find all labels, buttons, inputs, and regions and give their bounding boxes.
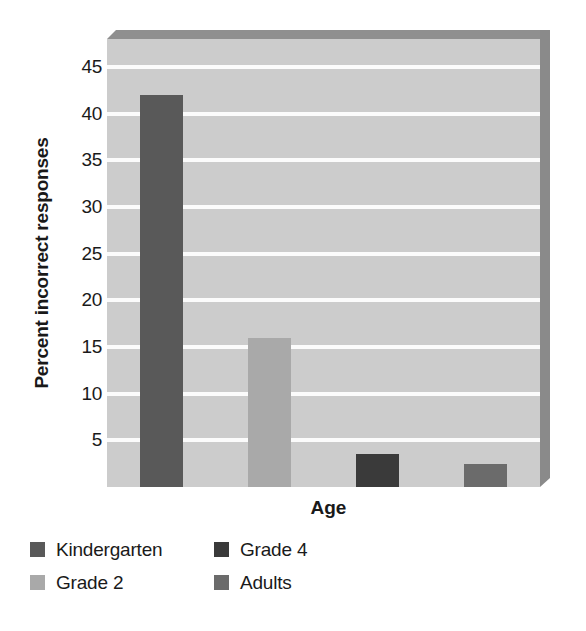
y-axis-title: Percent incorrect responses	[31, 103, 53, 423]
y-axis-tick-label: 5	[58, 429, 102, 451]
plot-right-bevel	[540, 30, 550, 487]
legend-row: Grade 2 Adults	[30, 566, 450, 599]
x-axis-title: Age	[107, 497, 550, 519]
y-axis-tick-label: 25	[58, 243, 102, 265]
legend-row: Kindergarten Grade 4	[30, 533, 450, 566]
y-axis-tick-labels: 51015202530354045	[58, 30, 102, 487]
bar-grade-4	[356, 454, 399, 487]
plot-shell	[107, 30, 550, 487]
legend-label: Kindergarten	[56, 539, 162, 561]
legend-swatch-icon	[214, 542, 229, 557]
chart-legend: Kindergarten Grade 4 Grade 2 Adults	[30, 533, 450, 599]
y-axis-tick-label: 20	[58, 289, 102, 311]
y-axis-tick-label: 45	[58, 56, 102, 78]
bar-adults	[464, 464, 507, 487]
legend-item-grade-4: Grade 4	[214, 539, 307, 561]
legend-swatch-icon	[30, 575, 45, 590]
bar-grade-2	[248, 338, 291, 487]
legend-item-kindergarten: Kindergarten	[30, 539, 214, 561]
bar-chart-figure: Percent incorrect responses 510152025303…	[0, 0, 586, 631]
plot-area	[107, 39, 540, 487]
legend-label: Grade 2	[56, 572, 123, 594]
y-axis-tick-label: 10	[58, 383, 102, 405]
legend-item-grade-2: Grade 2	[30, 572, 214, 594]
legend-swatch-icon	[214, 575, 229, 590]
bars-layer	[107, 39, 540, 487]
legend-label: Adults	[240, 572, 292, 594]
y-axis-tick-label: 35	[58, 149, 102, 171]
plot-top-bevel	[107, 30, 541, 39]
y-axis-tick-label: 15	[58, 336, 102, 358]
y-axis-tick-label: 30	[58, 196, 102, 218]
bar-kindergarten	[140, 95, 183, 487]
y-axis-tick-label: 40	[58, 103, 102, 125]
legend-swatch-icon	[30, 542, 45, 557]
legend-item-adults: Adults	[214, 572, 292, 594]
legend-label: Grade 4	[240, 539, 307, 561]
